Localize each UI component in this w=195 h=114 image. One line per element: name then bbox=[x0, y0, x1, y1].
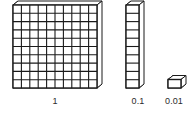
hundred-flat-block bbox=[13, 1, 102, 88]
ten-rod-block bbox=[126, 1, 144, 88]
place-value-blocks-figure: 1 0.1 0.01 bbox=[0, 0, 195, 114]
block-label-one: 1 bbox=[13, 96, 97, 106]
flat-right-face bbox=[97, 1, 102, 88]
cube-front-face bbox=[168, 80, 181, 89]
rod-right-face bbox=[139, 1, 144, 88]
block-label-hundredth: 0.01 bbox=[152, 96, 195, 106]
unit-cube-block bbox=[168, 76, 186, 89]
